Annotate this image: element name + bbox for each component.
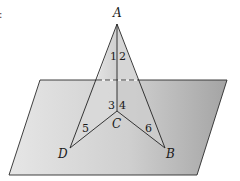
label-angle-2: 2 bbox=[119, 50, 126, 63]
label-point-d: D bbox=[57, 147, 68, 161]
cropped-text-fragment: : bbox=[0, 9, 2, 20]
geometry-figure: : A C D B 1 2 3 4 5 6 bbox=[0, 0, 240, 181]
label-point-a: A bbox=[112, 6, 122, 20]
label-angle-4: 4 bbox=[119, 99, 126, 112]
label-angle-6: 6 bbox=[145, 122, 152, 135]
label-point-c: C bbox=[112, 117, 121, 131]
label-point-b: B bbox=[165, 147, 175, 161]
label-angle-3: 3 bbox=[108, 99, 115, 112]
label-angle-1: 1 bbox=[110, 50, 117, 63]
label-angle-5: 5 bbox=[82, 122, 89, 135]
